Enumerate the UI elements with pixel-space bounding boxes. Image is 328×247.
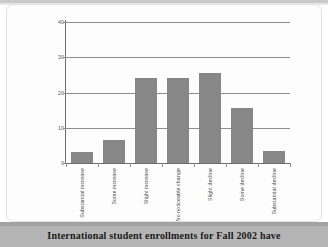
- x-axis-tick-mark: [226, 163, 227, 167]
- y-axis-tick-label: 10: [44, 125, 64, 131]
- x-axis-tick-mark: [258, 163, 259, 167]
- x-axis-tick-mark: [290, 163, 291, 167]
- figure-caption: International student enrollments for Fa…: [0, 230, 328, 241]
- x-axis-tick-mark: [98, 163, 99, 167]
- x-axis-tick-mark: [130, 163, 131, 167]
- bar: [71, 152, 93, 163]
- x-axis-category-label: No noticeable change: [175, 168, 181, 221]
- bar: [135, 78, 157, 163]
- x-axis-tick-mark: [162, 163, 163, 167]
- x-axis-tick-mark: [66, 163, 67, 167]
- bars-group: [66, 22, 290, 163]
- caption-band-top-edge: [0, 222, 328, 226]
- bar: [103, 140, 125, 163]
- bar: [199, 73, 221, 163]
- y-axis-tick-label: 30: [44, 54, 64, 60]
- y-axis-tick-label: 40: [44, 19, 64, 25]
- x-axis-category-label: Substantial increase: [79, 168, 85, 218]
- x-axis-tick-mark: [194, 163, 195, 167]
- bar: [263, 151, 285, 163]
- x-axis-category-label: Some decline: [239, 168, 245, 201]
- bar-chart: 010203040 Substantial increaseSome incre…: [0, 0, 328, 222]
- y-axis-tick-label: 0: [44, 160, 64, 166]
- x-axis-category-label: Some increase: [111, 168, 117, 205]
- bar: [167, 78, 189, 163]
- x-axis-category-label: Substantial decline: [271, 168, 277, 214]
- figure-container: 010203040 Substantial increaseSome incre…: [0, 0, 328, 247]
- bar: [231, 108, 253, 163]
- x-axis-category-label: Slight decline: [207, 168, 213, 201]
- x-axis-category-label: Slight increase: [143, 168, 149, 204]
- y-axis-tick-label: 20: [44, 90, 64, 96]
